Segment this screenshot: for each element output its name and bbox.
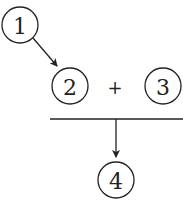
node-2: 2: [52, 68, 88, 104]
node-4: 4: [98, 162, 134, 198]
diagram-canvas: 1 2 + 3 4: [0, 0, 183, 200]
plus-operator: +: [107, 77, 122, 98]
node-3-label: 3: [156, 75, 170, 100]
arrow-1-to-2: [33, 38, 57, 66]
node-4-label: 4: [109, 169, 123, 194]
node-1: 1: [2, 7, 38, 43]
node-2-label: 2: [63, 75, 77, 100]
node-1-label: 1: [13, 14, 27, 39]
node-3: 3: [145, 68, 181, 104]
